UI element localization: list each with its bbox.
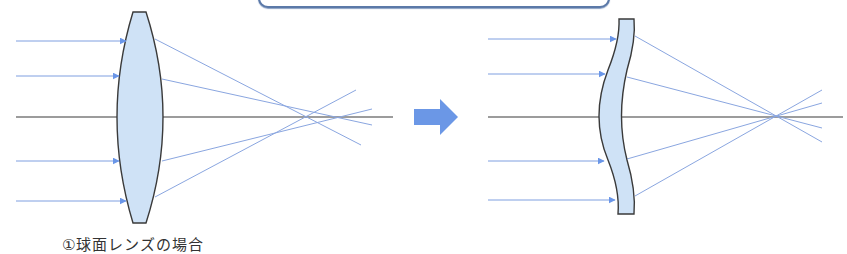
- biconvex-lens: [117, 12, 163, 223]
- right-panel-aspheric-lens: [488, 19, 843, 214]
- refracted-rays-left: [155, 39, 372, 197]
- incoming-rays-right: [488, 39, 616, 200]
- right-arrow-icon: [414, 99, 458, 135]
- incoming-rays-left: [16, 41, 126, 201]
- left-panel-caption: ①球面レンズの場合: [62, 233, 204, 254]
- title-banner: [258, 0, 610, 8]
- left-panel-spherical-lens: [16, 12, 393, 223]
- refracted-rays-right: [627, 36, 822, 196]
